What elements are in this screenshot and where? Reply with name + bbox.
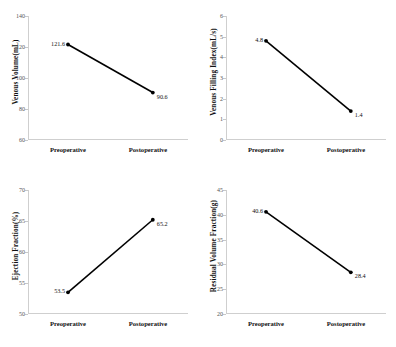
x-category-label: Postoperative (306, 320, 386, 327)
chart-panel-venous-filling-index: Venous Filling Index(mL/s) 01234564.81.4… (198, 0, 396, 174)
x-axis-labels: PreoperativePostoperative (28, 146, 188, 153)
data-point-marker (66, 43, 70, 47)
data-point-label: 65.2 (157, 219, 168, 226)
data-point-label: 90.6 (157, 92, 168, 99)
chart-area-residual-volume-fraction: Residual Volume Fraction(g) 202530354045… (198, 174, 396, 347)
data-point-marker (151, 91, 155, 95)
x-category-label: Postoperative (108, 146, 188, 153)
x-category-label: Preoperative (226, 320, 306, 327)
data-point-label: 1.4 (355, 111, 363, 118)
x-axis-labels: PreoperativePostoperative (226, 146, 386, 153)
data-point-marker (264, 39, 268, 43)
chart-area-venous-volume: Venous Volume(mL) 6080100120140121.690.6… (0, 0, 198, 174)
x-category-label: Preoperative (28, 146, 108, 153)
chart-area-venous-filling-index: Venous Filling Index(mL/s) 01234564.81.4… (198, 0, 396, 174)
data-point-marker (151, 218, 155, 222)
chart-panel-ejection-fraction: Ejection Fraction(%) 505560657053.565.2P… (0, 174, 198, 347)
data-point-label: 40.6 (252, 206, 263, 213)
data-point-label: 121.6 (51, 39, 65, 46)
data-point-marker (349, 109, 353, 113)
x-category-label: Postoperative (306, 146, 386, 153)
x-axis-labels: PreoperativePostoperative (28, 320, 188, 327)
x-axis-labels: PreoperativePostoperative (226, 320, 386, 327)
data-point-marker (349, 270, 353, 274)
figure-grid: Venous Volume(mL) 6080100120140121.690.6… (0, 0, 396, 347)
x-category-label: Preoperative (28, 320, 108, 327)
x-category-label: Postoperative (108, 320, 188, 327)
x-category-label: Preoperative (226, 146, 306, 153)
data-point-label: 28.4 (355, 272, 366, 279)
data-point-label: 53.5 (54, 287, 65, 294)
data-point-label: 4.8 (255, 35, 263, 42)
data-point-marker (66, 290, 70, 294)
chart-area-ejection-fraction: Ejection Fraction(%) 505560657053.565.2P… (0, 174, 198, 347)
chart-panel-residual-volume-fraction: Residual Volume Fraction(g) 202530354045… (198, 174, 396, 347)
data-point-marker (264, 210, 268, 214)
chart-panel-venous-volume: Venous Volume(mL) 6080100120140121.690.6… (0, 0, 198, 174)
